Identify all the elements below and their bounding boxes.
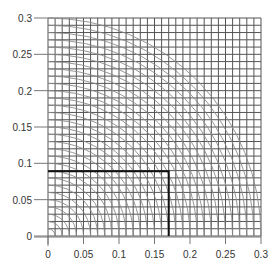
arc xyxy=(48,156,126,236)
x-tick-label: 0.25 xyxy=(216,249,236,260)
y-tick-label: 0 xyxy=(26,231,32,242)
x-tick-label: 0 xyxy=(45,249,51,260)
x-tick-label: 0.05 xyxy=(74,249,94,260)
x-tick-label: 0.1 xyxy=(112,249,126,260)
grid-lines xyxy=(48,18,261,236)
chart: 00.050.10.150.20.250.3 00.050.10.150.20.… xyxy=(0,0,276,273)
x-axis-ticks: 00.050.10.150.20.250.3 xyxy=(45,236,268,260)
y-axis-ticks: 00.050.10.150.20.250.3 xyxy=(13,13,48,242)
y-tick-label: 0.3 xyxy=(18,13,32,24)
y-tick-label: 0.1 xyxy=(18,158,32,169)
y-tick-label: 0.25 xyxy=(13,49,33,60)
arc xyxy=(48,171,112,236)
arc xyxy=(48,229,55,236)
y-tick-label: 0.15 xyxy=(13,122,33,133)
x-tick-label: 0.2 xyxy=(183,249,197,260)
y-tick-label: 0.05 xyxy=(13,195,33,206)
arc xyxy=(48,214,69,236)
y-tick-label: 0.2 xyxy=(18,86,32,97)
x-tick-label: 0.15 xyxy=(145,249,165,260)
axes xyxy=(34,236,261,246)
x-tick-label: 0.3 xyxy=(254,249,268,260)
